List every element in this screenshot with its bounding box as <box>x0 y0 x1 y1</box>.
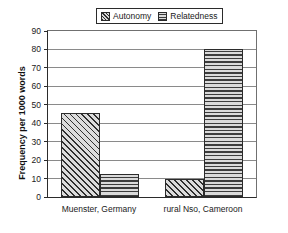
y-axis-tick-mark <box>44 104 48 105</box>
y-axis-tick-mark <box>44 178 48 179</box>
y-axis-tick-label: 10 <box>19 174 41 184</box>
legend-label-relatedness: Relatedness <box>170 12 217 21</box>
y-axis-tick-label: 80 <box>19 44 41 54</box>
y-axis-tick-label: 30 <box>19 137 41 147</box>
diagonal-hatch-swatch-icon <box>101 12 110 21</box>
y-axis-tick-label: 60 <box>19 81 41 91</box>
x-axis-tick-label: rural Nso, Cameroon <box>164 204 243 214</box>
y-axis-tick-label: 70 <box>19 63 41 73</box>
bar-autonomy-0 <box>61 113 100 197</box>
plot-area: 0102030405060708090 <box>47 30 257 198</box>
y-axis-tick-mark <box>44 67 48 68</box>
y-axis-tick-label: 40 <box>19 118 41 128</box>
y-axis-tick-mark <box>44 31 48 32</box>
y-axis-tick-label: 90 <box>19 26 41 36</box>
y-axis-tick-mark <box>44 49 48 50</box>
y-axis-tick-label: 20 <box>19 155 41 165</box>
y-axis-tick-label: 50 <box>19 100 41 110</box>
bar-relatedness-1 <box>204 49 243 197</box>
legend-entry-relatedness: Relatedness <box>158 12 217 21</box>
bar-autonomy-1 <box>165 179 204 197</box>
y-axis-tick-mark <box>44 123 48 124</box>
legend-label-autonomy: Autonomy <box>113 12 151 21</box>
y-axis-tick-mark <box>44 160 48 161</box>
y-axis-tick-mark <box>44 197 48 198</box>
bar-chart-figure: Autonomy Relatedness Frequency per 1000 … <box>0 0 288 233</box>
legend-entry-autonomy: Autonomy <box>101 12 151 21</box>
y-axis-tick-label: 0 <box>19 192 41 202</box>
y-axis-tick-mark <box>44 141 48 142</box>
x-axis-tick-label: Muenster, Germany <box>62 204 137 214</box>
y-axis-tick-mark <box>44 86 48 87</box>
bar-relatedness-0 <box>100 174 139 197</box>
chart-legend: Autonomy Relatedness <box>96 8 223 24</box>
horizontal-hatch-swatch-icon <box>158 12 167 21</box>
